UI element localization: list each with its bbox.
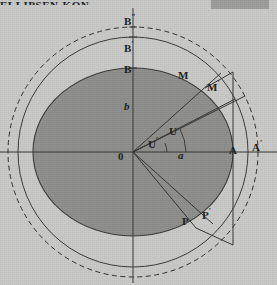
projection-p-prime [196, 228, 233, 245]
label-b-prime: B′ [124, 41, 134, 54]
diagram-page: ELLIPSEN-KONSTRUKTION [0, 0, 277, 285]
label-p-prime: P′ [202, 208, 211, 221]
label-origin: 0 [118, 151, 124, 162]
label-b-double-prime: B″ [124, 14, 136, 27]
label-a-prime: A′ [252, 140, 262, 153]
label-angle-u-prime: U′ [148, 137, 158, 150]
label-b: B [124, 62, 131, 75]
label-angle-u: U [169, 124, 177, 137]
label-b-axis: b [124, 101, 130, 112]
label-p-point: P [182, 214, 189, 227]
label-a-point: A [229, 143, 237, 156]
label-a-axis: a [178, 150, 184, 161]
label-m-prime: M′ [207, 80, 220, 93]
label-m-point: M [178, 68, 188, 81]
